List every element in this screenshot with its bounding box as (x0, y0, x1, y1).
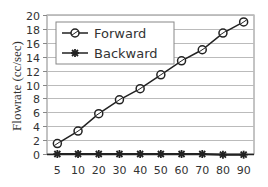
y-tick-label: 10 (26, 80, 40, 93)
legend-label-forward: Forward (94, 26, 146, 41)
x-tick-label: 30 (112, 164, 126, 177)
legend-label-backward: Backward (94, 46, 158, 61)
y-tick-label: 14 (26, 52, 40, 65)
y-tick-label: 8 (33, 93, 40, 106)
x-tick-label: 70 (195, 164, 209, 177)
x-tick-label: 20 (92, 164, 106, 177)
y-tick-label: 18 (26, 24, 40, 37)
series-line-backward (57, 154, 243, 155)
x-tick-label: 5 (54, 164, 61, 177)
x-tick-label: 10 (71, 164, 85, 177)
y-tick-label: 6 (33, 107, 40, 120)
y-tick-label: 4 (33, 121, 40, 134)
x-tick-label: 60 (175, 164, 189, 177)
x-tick-label: 90 (237, 164, 251, 177)
x-tick-label: 80 (216, 164, 230, 177)
y-tick-label: 0 (33, 149, 40, 162)
y-tick-label: 20 (26, 10, 40, 23)
x-tick-label: 40 (133, 164, 147, 177)
y-tick-label: 2 (33, 135, 40, 148)
flowrate-chart: 024681012141618205102030405060708090Forw… (0, 0, 268, 187)
y-tick-label: 12 (26, 66, 40, 79)
y-axis-label: Flowrate (cc/sec) (9, 31, 25, 141)
y-tick-label: 16 (26, 38, 40, 51)
x-tick-label: 50 (154, 164, 168, 177)
